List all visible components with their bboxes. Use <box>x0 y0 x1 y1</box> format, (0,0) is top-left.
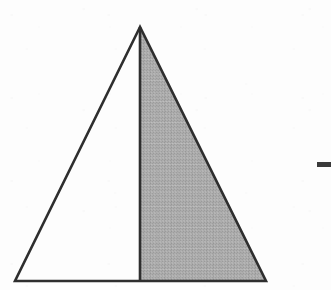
figure-canvas <box>0 0 331 290</box>
triangle-figure <box>0 0 331 290</box>
right-edge-dash <box>317 162 331 167</box>
